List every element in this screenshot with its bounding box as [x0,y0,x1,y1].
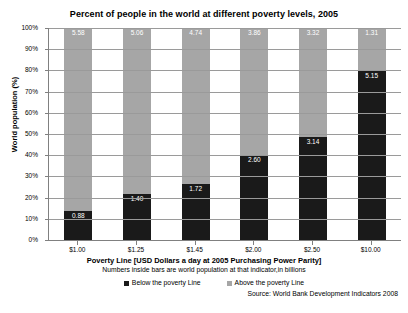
bar-segment-below-poverty[interactable]: 1.72 [182,184,210,240]
gridline [49,113,401,114]
x-axis-note: Numbers inside bars are world population… [0,266,408,274]
y-tick-mark [45,92,49,93]
bar-segment-above-poverty[interactable]: 5.58 [64,28,92,211]
y-tick-label: 10% [0,216,38,223]
y-tick-label: 100% [0,25,38,32]
y-tick-label: 20% [0,195,38,202]
legend-item-below[interactable]: Below the poverty Line [124,279,201,287]
y-tick-label: 90% [0,46,38,53]
x-axis-tick-labels: $1.00$1.25$1.45$2.00$2.50$10.00 [48,245,400,254]
bar-value-label: 3.32 [299,29,327,37]
y-tick-mark [45,28,49,29]
bar-value-label: 2.60 [240,156,268,164]
x-tick-label: $2.50 [283,245,342,254]
legend-label: Below the poverty Line [132,279,201,287]
plot-area: 5.580.885.061.404.741.723.862.603.323.14… [48,28,401,241]
chart-title: Percent of people in the world at differ… [0,9,408,19]
bar-value-label: 1.31 [358,29,386,37]
x-tick-label: $1.00 [48,245,107,254]
gridline [49,198,401,199]
gridline [49,176,401,177]
bar-segment-below-poverty[interactable]: 1.40 [123,194,151,240]
y-tick-label: 30% [0,173,38,180]
bar-value-label: 1.40 [123,195,151,203]
x-tick-label: $1.25 [107,245,166,254]
y-tick-mark [45,155,49,156]
legend-swatch-icon [227,281,232,286]
gridline [49,134,401,135]
bar-segment-above-poverty[interactable]: 3.32 [299,28,327,137]
y-tick-label: 80% [0,67,38,74]
y-tick-mark [45,219,49,220]
chart-legend: Below the poverty LineAbove the poverty … [0,279,408,287]
bar-value-label: 3.86 [240,29,268,37]
bar-value-label: 1.72 [182,185,210,193]
bar-value-label: 3.14 [299,138,327,146]
legend-swatch-icon [124,281,129,286]
bar-value-label: 5.58 [64,29,92,37]
y-tick-mark [45,49,49,50]
bar-value-label: 4.74 [182,29,210,37]
bar-segment-above-poverty[interactable]: 5.06 [123,28,151,194]
bar-value-label: 5.06 [123,29,151,37]
x-tick-label: $2.00 [224,245,283,254]
gridline [49,92,401,93]
y-tick-label: 50% [0,131,38,138]
y-tick-mark [45,113,49,114]
y-tick-label: 70% [0,89,38,96]
x-axis-title: Poverty Line [USD Dollars a day at 2005 … [0,256,408,265]
y-tick-label: 40% [0,152,38,159]
gridline [49,28,401,29]
bar-segment-above-poverty[interactable]: 4.74 [182,28,210,184]
bar-value-label: 5.15 [358,72,386,80]
legend-label: Above the poverty Line [235,279,305,287]
y-tick-mark [45,176,49,177]
y-tick-mark [45,134,49,135]
x-tick-label: $1.45 [165,245,224,254]
gridline [49,49,401,50]
source-note: Source: World Bank Development Indicator… [247,290,398,298]
y-tick-mark [45,198,49,199]
gridline [49,155,401,156]
gridline [49,70,401,71]
gridline [49,219,401,220]
y-tick-label: 60% [0,110,38,117]
y-tick-mark [45,70,49,71]
x-tick-label: $10.00 [341,245,400,254]
legend-item-above[interactable]: Above the poverty Line [227,279,305,287]
bar-segment-below-poverty[interactable]: 0.88 [64,211,92,240]
bar-segment-below-poverty[interactable]: 3.14 [299,137,327,240]
poverty-levels-chart: Percent of people in the world at differ… [0,0,408,313]
y-tick-label: 0% [0,237,38,244]
